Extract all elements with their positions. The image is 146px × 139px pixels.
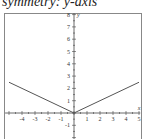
graph-plot: -4-3-2-112345x-112345678y <box>0 0 146 139</box>
y-tick-label: -1 <box>65 122 70 128</box>
x-tick-label: 2 <box>99 116 102 122</box>
x-axis-label: x <box>137 105 141 111</box>
y-tick-label: 2 <box>67 85 70 91</box>
y-tick-label: 7 <box>67 24 70 30</box>
y-tick-label: 3 <box>67 73 70 79</box>
x-tick-label: 3 <box>112 116 115 122</box>
x-tick-label: -2 <box>46 116 51 122</box>
x-tick-label: 4 <box>125 116 128 122</box>
x-tick-label: -4 <box>20 116 25 122</box>
x-tick-label: -3 <box>33 116 38 122</box>
y-tick-label: 4 <box>67 61 70 67</box>
axes: -4-3-2-112345x-112345678y <box>5 12 141 139</box>
y-tick-label: 5 <box>67 49 70 55</box>
y-tick-label: 8 <box>67 12 70 18</box>
x-tick-label: -1 <box>59 116 64 122</box>
x-tick-label: 1 <box>86 116 89 122</box>
y-tick-label: 6 <box>67 36 70 42</box>
y-axis-label: y <box>76 12 80 18</box>
x-tick-label: 5 <box>138 116 141 122</box>
y-tick-label: 1 <box>67 98 70 104</box>
